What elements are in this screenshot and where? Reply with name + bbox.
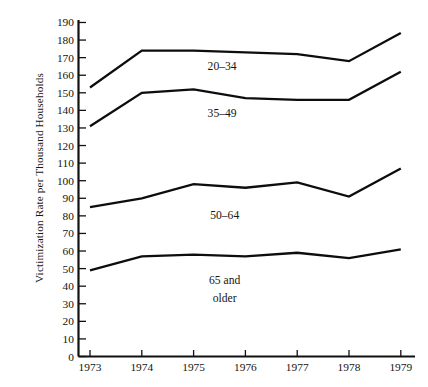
x-tick-label: 1979 [389, 361, 412, 373]
y-tick-label: 120 [57, 140, 74, 152]
y-tick-label: 40 [63, 280, 75, 292]
x-tick-label: 1973 [79, 361, 102, 373]
y-tick-label: 160 [57, 69, 74, 81]
data-line-65-and-older [90, 249, 401, 270]
x-tick-label: 1978 [338, 361, 361, 373]
y-axis-ticks [79, 22, 87, 356]
y-tick-label: 0 [68, 351, 74, 363]
y-tick-label: 90 [63, 192, 75, 204]
y-tick-label: 60 [63, 245, 75, 257]
data-series-group [90, 33, 401, 270]
x-axis-tick-labels: 1973197419751976197719781979 [79, 361, 413, 373]
y-tick-label: 140 [57, 104, 74, 116]
series-annotation-label: 50–64 [210, 209, 239, 222]
data-line-20-34 [90, 33, 401, 87]
series-annotation-label: older [213, 292, 237, 305]
series-annotation-label: 20–34 [208, 60, 237, 73]
data-line-50-64 [90, 168, 401, 207]
x-tick-label: 1974 [130, 361, 153, 373]
victimization-rate-line-chart: Victimization Rate per Thousand Househol… [0, 0, 428, 387]
y-tick-label: 180 [57, 34, 74, 46]
y-tick-label: 100 [57, 175, 74, 187]
x-tick-label: 1975 [182, 361, 205, 373]
y-tick-label: 50 [63, 263, 75, 275]
data-line-35-49 [90, 72, 401, 126]
y-axis-tick-labels: 0102030405060708090100110120130140150160… [57, 16, 74, 362]
series-annotation-label: 65 and [209, 274, 240, 287]
y-tick-label: 70 [63, 227, 75, 239]
y-tick-label: 130 [57, 122, 74, 134]
chart-plot-area: 0102030405060708090100110120130140150160… [0, 0, 428, 387]
y-tick-label: 170 [57, 52, 74, 64]
y-tick-label: 10 [63, 333, 75, 345]
y-tick-label: 190 [57, 16, 74, 28]
y-tick-label: 150 [57, 87, 74, 99]
x-tick-label: 1977 [286, 361, 309, 373]
y-tick-label: 20 [63, 315, 75, 327]
y-tick-label: 30 [63, 298, 75, 310]
x-tick-label: 1976 [234, 361, 257, 373]
y-tick-label: 110 [57, 157, 74, 169]
y-tick-label: 80 [63, 210, 75, 222]
series-annotation-label: 35–49 [208, 107, 237, 120]
